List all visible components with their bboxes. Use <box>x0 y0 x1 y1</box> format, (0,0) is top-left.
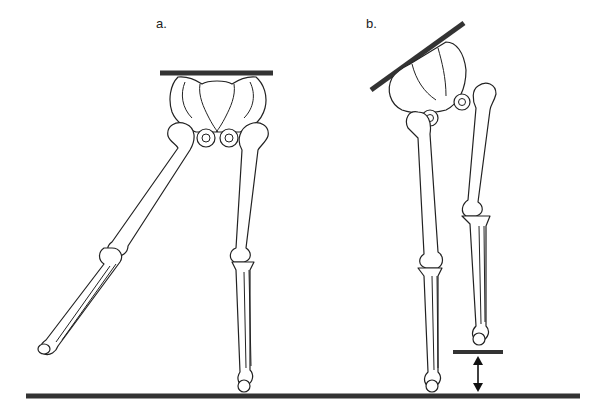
tibia-right-a <box>232 262 254 386</box>
foot-right-a <box>238 380 250 392</box>
pelvis-b <box>389 42 470 126</box>
panel-a <box>38 73 273 392</box>
foot-left-b <box>426 380 438 392</box>
skeleton-diagram <box>0 0 602 416</box>
panel-b <box>371 23 503 392</box>
foot-right-b <box>473 333 485 345</box>
height-difference-arrow-icon <box>473 356 483 392</box>
tibia-left-b <box>418 268 442 388</box>
femur-left-b <box>406 112 442 268</box>
foot-left-a <box>38 344 50 354</box>
tibia-left-a <box>40 248 121 355</box>
tibia-right-b <box>462 216 490 342</box>
femur-left-a <box>108 123 194 257</box>
